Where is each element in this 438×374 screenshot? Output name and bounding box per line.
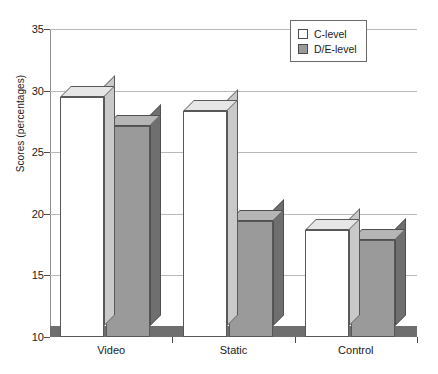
plot-area <box>50 29 417 337</box>
x-tick-label-video: Video <box>97 344 125 356</box>
chart-legend: C-levelD/E-level <box>290 20 367 62</box>
y-tick-label: 20 <box>10 208 44 220</box>
bar-side-face <box>227 89 238 326</box>
x-tick-label-control: Control <box>338 344 373 356</box>
legend-item-c: C-level <box>298 26 357 41</box>
y-axis: 101520253035 <box>0 0 44 374</box>
legend-label: D/E-level <box>314 43 357 55</box>
bar-side-face <box>150 104 161 326</box>
legend-label: C-level <box>314 28 347 40</box>
x-tick-label-static: Static <box>220 344 248 356</box>
legend-swatch-de <box>298 44 308 54</box>
y-tick-label: 25 <box>10 146 44 158</box>
legend-item-de: D/E-level <box>298 41 357 56</box>
y-tick-label: 35 <box>10 23 44 35</box>
legend-swatch-c <box>298 29 308 39</box>
bar-front-face <box>183 111 227 337</box>
bar-front-face <box>60 97 104 337</box>
x-tick-mark <box>172 337 173 343</box>
bar-control-c-level <box>305 219 349 337</box>
x-tick-mark <box>295 337 296 343</box>
bar-chart: Scores (percentages) 101520253035 VideoS… <box>0 0 438 374</box>
y-tick-mark <box>44 337 50 338</box>
y-tick-label: 30 <box>10 85 44 97</box>
bar-video-c-level <box>60 86 104 337</box>
y-tick-label: 10 <box>10 331 44 343</box>
bar-side-face <box>104 75 115 326</box>
x-tick-mark <box>417 337 418 343</box>
bar-static-c-level <box>183 100 227 337</box>
bar-front-face <box>305 230 349 337</box>
y-tick-label: 15 <box>10 269 44 281</box>
